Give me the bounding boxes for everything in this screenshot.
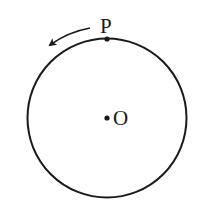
circle-diagram: P O [0,0,197,219]
center-o-label: O [113,106,128,130]
point-p-label: P [100,14,112,38]
center-o-dot [104,115,109,120]
